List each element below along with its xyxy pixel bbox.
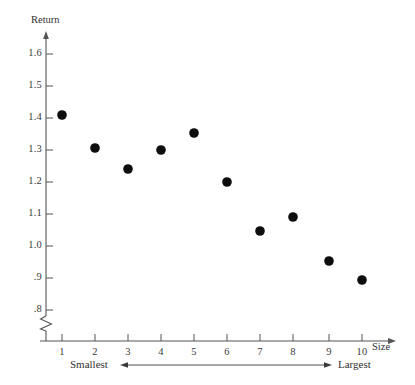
y-tick-label: 1.4: [4, 111, 42, 122]
data-point: [189, 128, 199, 138]
y-tick-label: .9: [4, 271, 42, 282]
y-tick-label: 1.0: [4, 239, 42, 250]
y-tick-label: .8: [4, 303, 42, 314]
range-label-largest: Largest: [338, 358, 371, 370]
y-tick-label: 1.2: [4, 175, 42, 186]
y-axis-title: Return: [31, 14, 60, 25]
size-range-arrow: [120, 362, 332, 367]
data-point: [123, 164, 133, 174]
x-tick-label: 6: [213, 346, 241, 357]
x-tick-label: 2: [81, 346, 109, 357]
data-point: [222, 177, 232, 187]
plot-canvas: [0, 0, 415, 385]
data-point-series: [57, 110, 367, 285]
scatter-chart-figure: Return 1.6 1.5 1.4 1.3 1.2 1.1 1.0 .9 .8…: [0, 0, 415, 385]
y-axis: [41, 31, 52, 341]
y-tick-label: 1.5: [4, 79, 42, 90]
x-axis-title: Size: [372, 341, 390, 352]
x-tick-label: 7: [246, 346, 274, 357]
x-tick-label: 8: [279, 346, 307, 357]
y-axis-ticks: [46, 54, 53, 310]
y-tick-label: 1.6: [4, 47, 42, 58]
y-tick-label: 1.1: [4, 207, 42, 218]
x-tick-label: 5: [180, 346, 208, 357]
x-axis-ticks: [62, 334, 362, 341]
data-point: [156, 145, 166, 155]
data-point: [255, 226, 265, 236]
data-point: [324, 256, 334, 266]
data-point: [357, 275, 367, 285]
x-axis: [40, 338, 396, 344]
x-tick-label: 1: [48, 346, 76, 357]
x-tick-label: 3: [114, 346, 142, 357]
x-tick-label: 9: [315, 346, 343, 357]
data-point: [90, 143, 100, 153]
data-point: [57, 110, 67, 120]
range-label-smallest: Smallest: [70, 358, 108, 370]
y-tick-label: 1.3: [4, 143, 42, 154]
x-tick-label: 4: [147, 346, 175, 357]
data-point: [288, 212, 298, 222]
